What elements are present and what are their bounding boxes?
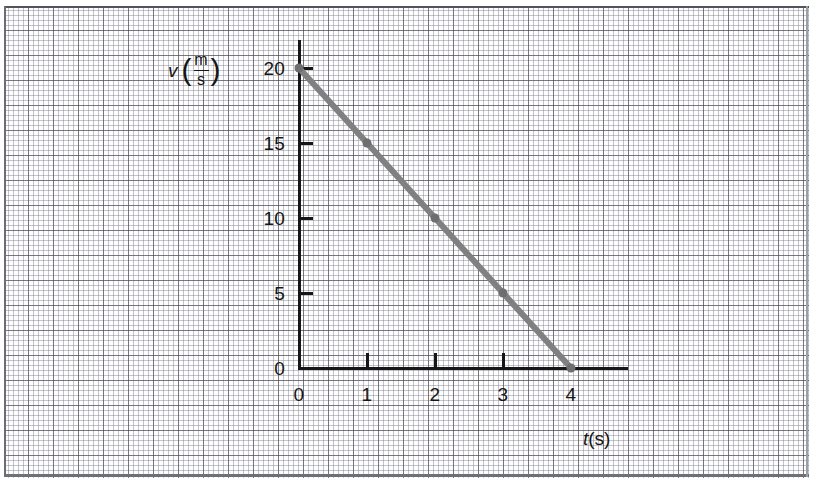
y-axis-open-paren: ( xyxy=(182,55,192,85)
data-series-velocity xyxy=(295,64,576,373)
y-tick-label: 15 xyxy=(227,134,285,153)
y-axis-close-paren: ) xyxy=(211,55,221,85)
y-axis-symbol: v xyxy=(168,61,181,80)
data-point xyxy=(567,364,576,373)
data-point xyxy=(295,64,304,73)
y-tick-label: 10 xyxy=(227,209,285,228)
x-tick-label: 3 xyxy=(498,385,509,404)
y-axis-unit-fraction: m s xyxy=(193,52,210,89)
y-axis-ticks xyxy=(300,69,313,294)
x-tick-label: 2 xyxy=(430,385,441,404)
axes xyxy=(298,40,628,369)
data-point xyxy=(499,289,508,298)
x-axis-title: t(s) xyxy=(583,429,610,448)
velocity-time-plot xyxy=(0,0,813,488)
y-tick-label: 5 xyxy=(227,284,285,303)
y-axis-title: v ( m s ) xyxy=(168,52,221,89)
data-point xyxy=(363,139,372,148)
y-tick-label: 20 xyxy=(227,59,285,78)
y-axis-unit-denominator: s xyxy=(197,71,205,89)
x-tick-label: 1 xyxy=(362,385,373,404)
x-tick-label: 4 xyxy=(566,385,577,404)
data-point xyxy=(431,214,440,223)
x-axis-ticks xyxy=(368,353,504,367)
x-axis-unit: (s) xyxy=(588,428,610,449)
y-tick-label: 0 xyxy=(227,359,285,378)
y-axis-unit-numerator: m xyxy=(194,52,207,70)
graph-screenshot: 05101520 01234 v ( m s ) t(s) xyxy=(0,0,813,488)
x-tick-label: 0 xyxy=(294,385,305,404)
